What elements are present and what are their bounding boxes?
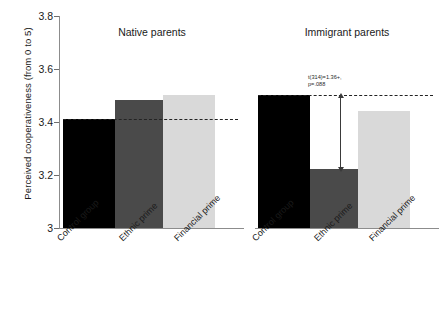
y-tick-label-3-4: 3.4: [27, 116, 53, 128]
y-tick-label-3-2: 3.2: [27, 169, 53, 181]
comparison-arrow-shaft: [340, 96, 341, 171]
reference-line-native: [63, 119, 238, 120]
y-axis-tick-labels: 3 3.2 3.4 3.6 3.8: [27, 0, 53, 309]
reference-line-immigrant: [258, 95, 433, 96]
panel-left-title: Native parents: [60, 26, 244, 38]
bar-chart-figure: Perceived cooperativeness (from 0 to 5) …: [0, 0, 439, 309]
x-axis-line-left: [60, 228, 244, 229]
panel-right-title: Immigrant parents: [255, 26, 439, 38]
y-tick-label-3: 3: [27, 222, 53, 234]
significance-annotation-line-2: p=.088: [308, 81, 342, 89]
comparison-arrow-head-up-icon: [338, 93, 344, 98]
x-axis-line-right: [255, 228, 439, 229]
significance-annotation-line-1: t(314)=1.36+,: [308, 74, 342, 82]
significance-annotation: t(314)=1.36+, p=.088: [308, 74, 342, 89]
y-tick-label-3-6: 3.6: [27, 63, 53, 75]
comparison-arrow-head-down-icon: [338, 167, 344, 172]
y-tick-label-3-8: 3.8: [27, 10, 53, 22]
